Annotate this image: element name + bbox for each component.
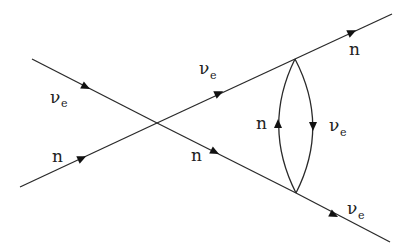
label-loop-neutrino: ν e [329, 115, 347, 139]
svg-text:e: e [61, 97, 68, 110]
svg-text:n: n [256, 113, 267, 133]
label-incoming-neutrino: ν e [50, 87, 68, 110]
svg-text:n: n [349, 39, 360, 59]
loop-neutrino-arc [295, 59, 313, 193]
outgoing-neutrino-line [296, 193, 390, 242]
arrow-icon-mid-n [209, 146, 221, 157]
label-intermediate-neutrino: ν e [199, 58, 217, 82]
svg-text:e: e [210, 69, 217, 82]
label-outgoing-neutron: n [349, 39, 360, 59]
outgoing-neutron-line [295, 14, 392, 59]
arrow-icon-outgoing-n [346, 27, 358, 38]
svg-text:ν: ν [50, 87, 60, 107]
arrow-icon-loop-nu-down [309, 122, 317, 131]
label-intermediate-neutron: n [191, 145, 202, 165]
arrow-icon-loop-n-up [274, 119, 282, 128]
intermediate-neutrino-line [157, 59, 295, 123]
arrow-icon-incoming-n [76, 153, 88, 164]
label-outgoing-neutrino: ν e [347, 198, 365, 222]
arrow-icon-mid-nu [213, 88, 225, 99]
loop-neutron-arc [279, 59, 296, 193]
svg-text:ν: ν [329, 115, 339, 135]
label-loop-neutron: n [256, 113, 267, 133]
svg-text:n: n [191, 145, 202, 165]
svg-text:e: e [340, 126, 347, 139]
incoming-neutron-line [20, 123, 157, 187]
svg-text:ν: ν [199, 58, 209, 78]
feynman-diagram: ν e n ν e n n ν e n ν e [0, 0, 413, 252]
svg-text:n: n [52, 146, 63, 166]
intermediate-neutron-line [157, 123, 296, 193]
label-incoming-neutron: n [52, 146, 63, 166]
arrow-icon-incoming-nu [80, 81, 92, 92]
svg-text:ν: ν [347, 198, 357, 218]
svg-text:e: e [358, 209, 365, 222]
